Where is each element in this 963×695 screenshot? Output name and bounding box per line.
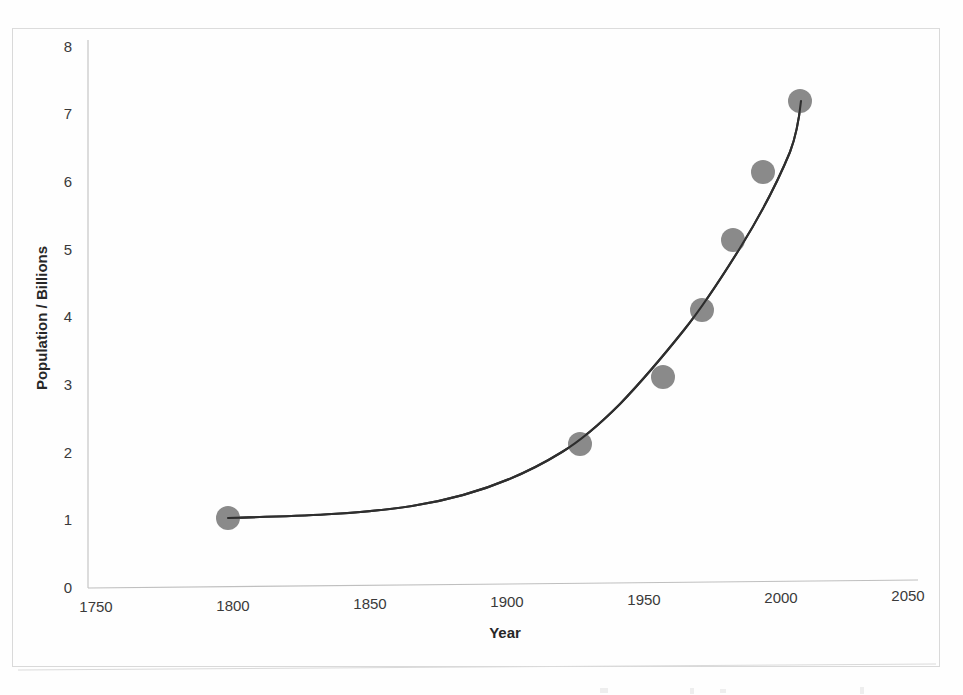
x-axis-title: Year — [489, 624, 521, 641]
y-tick-label-1: 1 — [64, 511, 72, 528]
data-point-1997 — [751, 160, 775, 184]
data-point-1960 — [651, 365, 675, 389]
x-tick-label-1800: 1800 — [216, 597, 249, 614]
series-line-overlay — [228, 101, 801, 518]
y-tick-label-6: 6 — [64, 173, 72, 190]
y-tick-label-0: 0 — [64, 579, 72, 596]
y-tick-label-4: 4 — [64, 308, 72, 325]
y-tick-label-2: 2 — [64, 444, 72, 461]
y-tick-label-3: 3 — [64, 376, 72, 393]
x-tick-label-1750: 1750 — [79, 598, 112, 615]
x-tick-label-1850: 1850 — [353, 595, 386, 612]
data-point-1930 — [568, 432, 592, 456]
data-point-1986 — [721, 228, 745, 252]
series-line-world-population — [228, 101, 801, 518]
population-growth-chart: 8 7 6 5 4 3 2 1 0 1750 1800 1850 1900 19… — [0, 0, 963, 695]
scanned-page: 8 7 6 5 4 3 2 1 0 1750 1800 1850 1900 19… — [0, 0, 963, 695]
x-tick-label-2000: 2000 — [764, 589, 797, 606]
y-tick-label-5: 5 — [64, 241, 72, 258]
y-axis-title: Population / Billions — [33, 246, 50, 390]
x-tick-label-1950: 1950 — [627, 591, 660, 608]
y-tick-label-7: 7 — [64, 105, 72, 122]
x-axis-line — [88, 580, 918, 588]
x-tick-label-1900: 1900 — [490, 593, 523, 610]
x-tick-label-2050: 2050 — [891, 587, 924, 604]
y-tick-label-8: 8 — [64, 38, 72, 55]
